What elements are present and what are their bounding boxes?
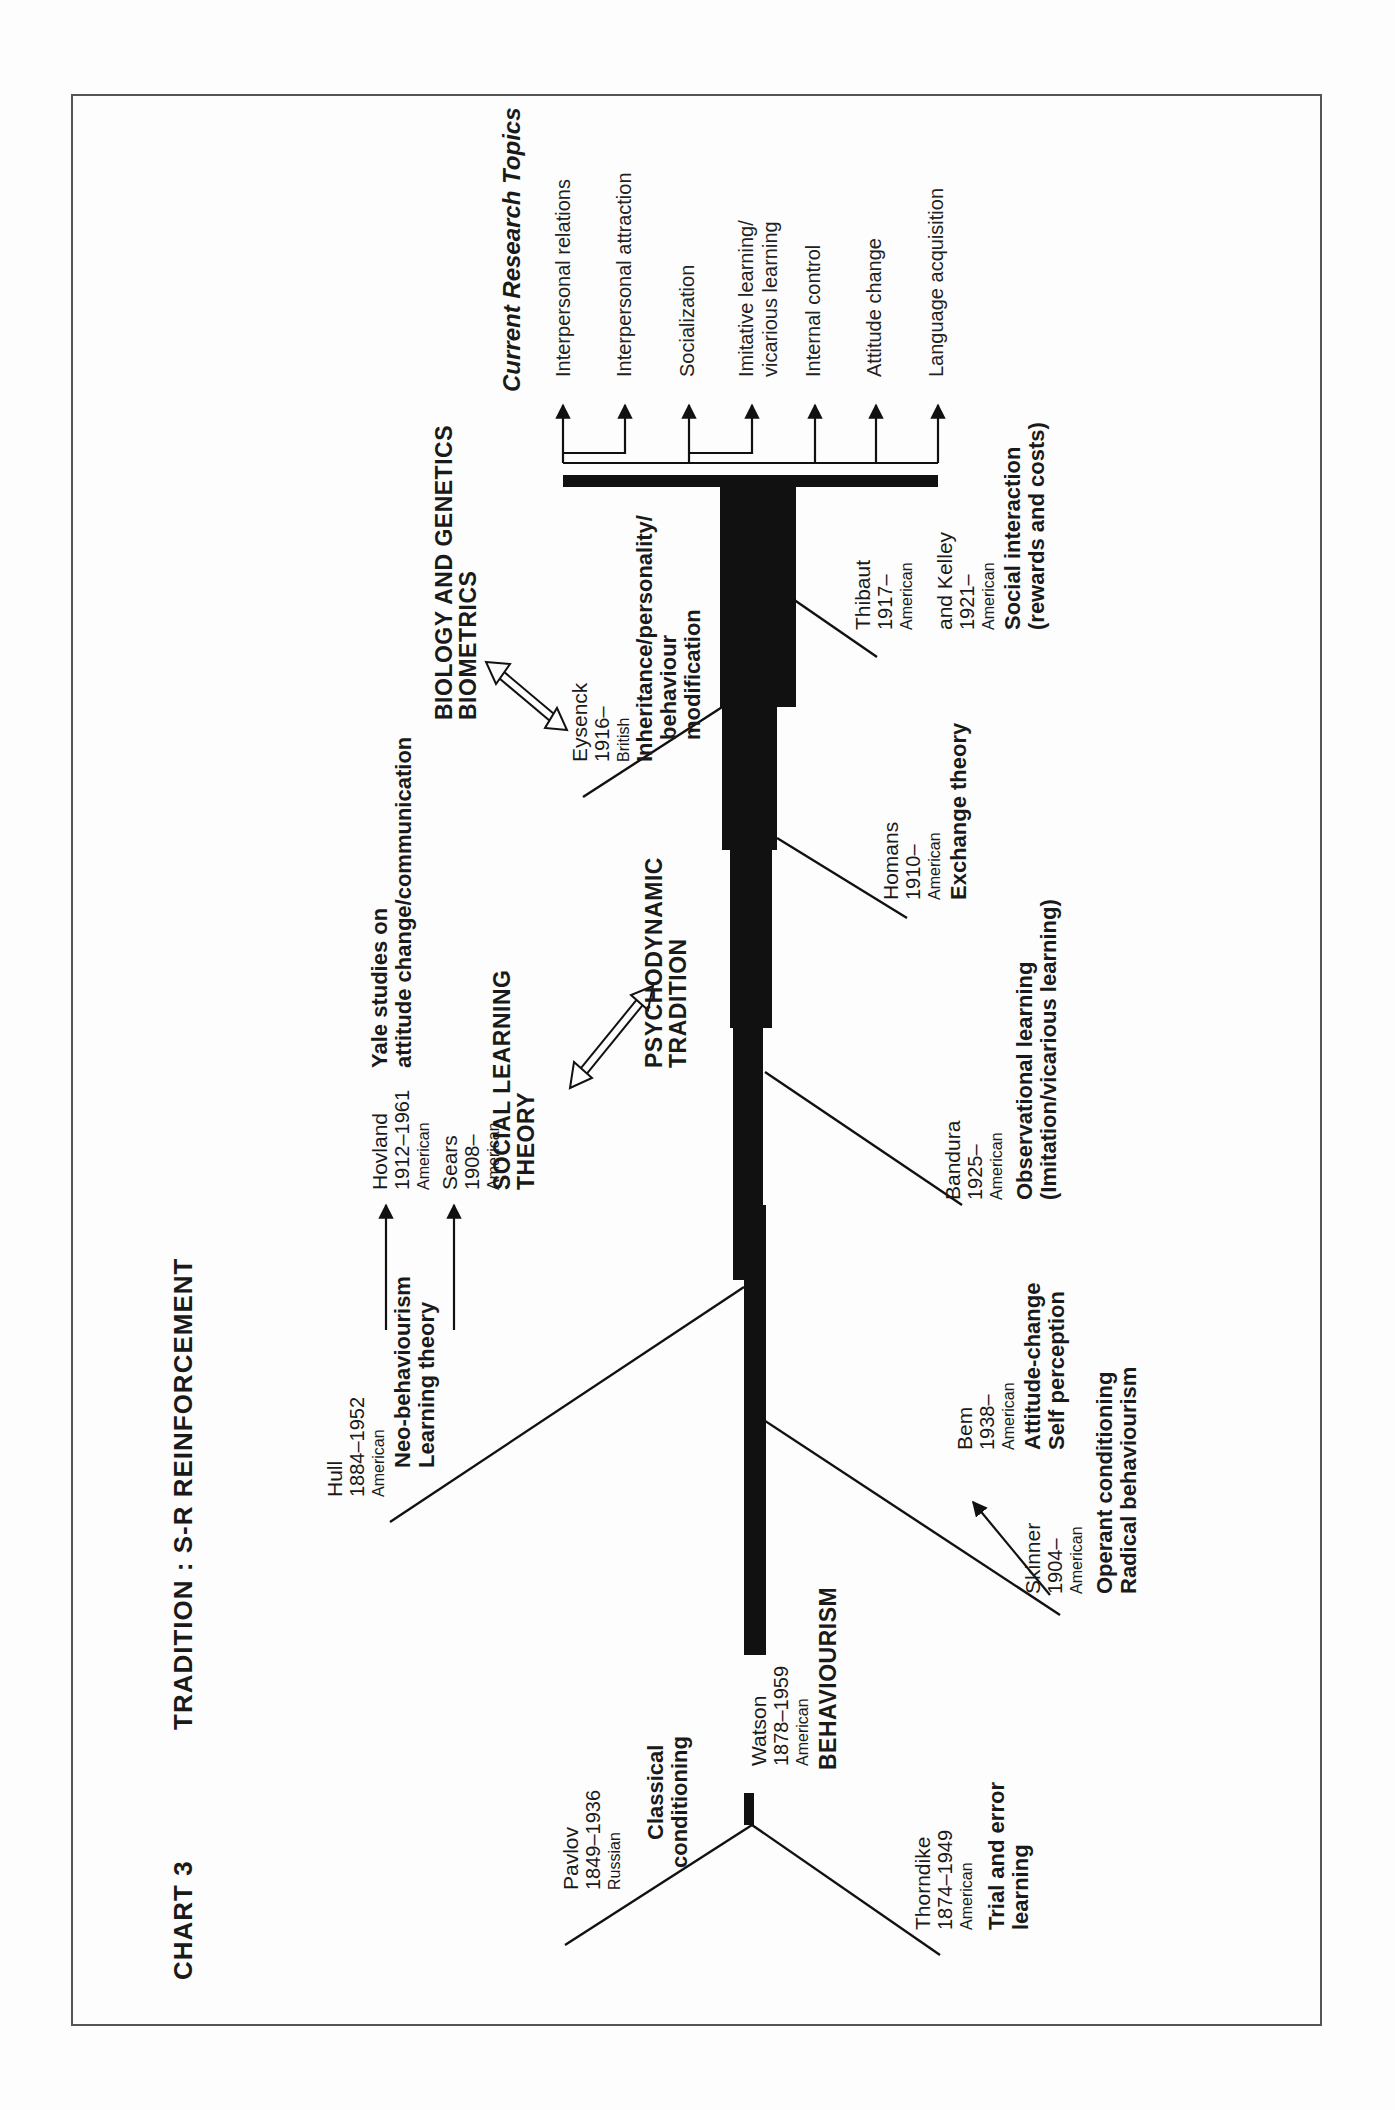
chart-number: CHART 3: [168, 1860, 198, 1980]
topic-interpersonal-relations: Interpersonal relations: [552, 179, 574, 377]
svg-text:1908–: 1908–: [461, 1134, 483, 1190]
svg-text:Sears: Sears: [438, 1135, 461, 1190]
kelley-label: and Kelley 1921– American: [933, 531, 997, 630]
hull-label: Hull 1884–1952 American: [323, 1397, 387, 1497]
thibaut-kelley-contribution: Social interaction (rewards and costs): [1000, 422, 1049, 630]
svg-text:Thibaut: Thibaut: [851, 560, 874, 630]
pavlov-label: Pavlov 1849–1936 Russian: [559, 1790, 623, 1890]
topic-language-acquisition: Language acquisition: [925, 188, 947, 377]
svg-text:American: American: [415, 1122, 432, 1190]
hovland-contribution: Yale studies on attitude change/communic…: [367, 737, 416, 1068]
eysenck-contribution: Inheritance/personality/ behaviour modif…: [632, 515, 705, 762]
bandura-branch: [765, 1072, 962, 1205]
svg-text:Bem: Bem: [953, 1407, 976, 1450]
svg-text:modification: modification: [680, 609, 705, 740]
svg-text:1912–1961: 1912–1961: [391, 1090, 413, 1190]
skinner-label: Skinner 1904– American: [1021, 1523, 1085, 1594]
svg-text:Bandura: Bandura: [941, 1120, 964, 1200]
thorndike-label: Thorndike 1874–1949 American: [911, 1830, 975, 1930]
svg-text:Social interaction: Social interaction: [1000, 447, 1025, 630]
svg-text:and Kelley: and Kelley: [933, 531, 956, 630]
svg-text:Thorndike: Thorndike: [911, 1837, 934, 1930]
topic-attitude-change: Attitude change: [863, 238, 885, 377]
svg-text:Self perception: Self perception: [1044, 1291, 1069, 1450]
svg-text:1904–: 1904–: [1044, 1538, 1066, 1594]
svg-text:BIOLOGY AND GENETICS: BIOLOGY AND GENETICS: [431, 425, 457, 720]
bem-contribution: Attitude-change Self perception: [1020, 1283, 1069, 1450]
bem-label: Bem 1938– American: [953, 1382, 1017, 1450]
svg-text:American: American: [926, 832, 943, 900]
svg-text:BIOMETRICS: BIOMETRICS: [455, 571, 481, 720]
svg-text:Interpersonal relations: Interpersonal relations: [552, 179, 574, 377]
topic-internal-control: Internal control: [802, 245, 824, 377]
eysenck-biology-double-arrow: [486, 662, 567, 730]
pavlov-contribution: Classical conditioning: [643, 1736, 692, 1868]
svg-text:American: American: [980, 562, 997, 630]
svg-text:Trial and error: Trial and error: [984, 1782, 1009, 1930]
svg-text:Homans: Homans: [879, 822, 902, 900]
svg-text:American: American: [794, 1698, 811, 1766]
svg-text:Socialization: Socialization: [676, 265, 698, 377]
topic-interpersonal-attraction: Interpersonal attraction: [613, 172, 635, 377]
svg-text:Imitative learning/: Imitative learning/: [735, 220, 757, 377]
svg-text:learning: learning: [1008, 1844, 1033, 1930]
svg-text:Attitude-change: Attitude-change: [1020, 1283, 1045, 1450]
svg-text:1925–: 1925–: [964, 1144, 986, 1200]
hull-branch: [390, 1287, 744, 1522]
svg-text:American: American: [1068, 1526, 1085, 1594]
svg-text:Hull: Hull: [323, 1461, 346, 1497]
hovland-label: Hovland 1912–1961 American: [368, 1090, 432, 1190]
topic-socialization: Socialization: [676, 265, 698, 377]
svg-text:conditioning: conditioning: [667, 1736, 692, 1868]
svg-text:Operant conditioning: Operant conditioning: [1092, 1372, 1117, 1594]
svg-text:Watson: Watson: [747, 1696, 770, 1766]
svg-text:1884–1952: 1884–1952: [346, 1397, 368, 1497]
svg-text:American: American: [898, 562, 915, 630]
social-learning-theory-label: SOCIAL LEARNING THEORY: [489, 970, 539, 1190]
svg-text:American: American: [988, 1132, 1005, 1200]
thorndike-contribution: Trial and error learning: [984, 1782, 1033, 1930]
svg-text:1874–1949: 1874–1949: [934, 1830, 956, 1930]
svg-text:1917–: 1917–: [874, 574, 896, 630]
research-topics-list: Interpersonal relations Interpersonal at…: [552, 172, 947, 377]
svg-text:BEHAVIOURISM: BEHAVIOURISM: [815, 1587, 841, 1770]
svg-text:Classical: Classical: [643, 1745, 668, 1840]
svg-text:American: American: [370, 1429, 387, 1497]
bandura-contribution: Observational learning (Imitation/vicari…: [1012, 899, 1061, 1200]
chart-canvas: CHART 3 TRADITION : S-R REINFORCEMENT: [0, 0, 1395, 2110]
svg-text:Hovland: Hovland: [368, 1113, 391, 1190]
svg-text:Internal control: Internal control: [802, 245, 824, 377]
svg-text:Yale studies on: Yale studies on: [367, 908, 392, 1068]
psychodynamic-tradition-label: PSYCHODYNAMIC TRADITION: [641, 857, 691, 1068]
svg-text:behaviour: behaviour: [656, 634, 681, 740]
biology-genetics-label: BIOLOGY AND GENETICS BIOMETRICS: [431, 425, 481, 720]
svg-text:Interpersonal attraction: Interpersonal attraction: [613, 172, 635, 377]
svg-text:TRADITION: TRADITION: [665, 938, 691, 1068]
svg-text:Attitude change: Attitude change: [863, 238, 885, 377]
svg-text:attitude change/communication: attitude change/communication: [391, 737, 416, 1068]
svg-text:Skinner: Skinner: [1021, 1523, 1044, 1594]
current-research-heading: Current Research Topics: [498, 107, 525, 392]
homans-label: Homans 1910– American: [879, 822, 943, 900]
svg-text:British: British: [615, 718, 632, 762]
svg-text:1916–: 1916–: [591, 706, 613, 762]
svg-text:Current Research Topics: Current Research Topics: [498, 107, 525, 392]
svg-text:American: American: [958, 1862, 975, 1930]
svg-text:1921–: 1921–: [956, 574, 978, 630]
hull-contribution: Neo-behaviourism Learning theory: [390, 1276, 439, 1468]
bandura-label: Bandura 1925– American: [941, 1120, 1005, 1200]
svg-text:(rewards and costs): (rewards and costs): [1024, 422, 1049, 630]
chart-title: TRADITION : S-R REINFORCEMENT: [168, 1258, 198, 1730]
svg-text:American: American: [1000, 1382, 1017, 1450]
research-topic-connectors: [563, 405, 938, 463]
svg-text:1910–: 1910–: [902, 844, 924, 900]
svg-text:Pavlov: Pavlov: [559, 1826, 582, 1890]
svg-text:1849–1936: 1849–1936: [582, 1790, 604, 1890]
svg-text:Language acquisition: Language acquisition: [925, 188, 947, 377]
svg-text:PSYCHODYNAMIC: PSYCHODYNAMIC: [641, 857, 667, 1068]
svg-text:Neo-behaviourism: Neo-behaviourism: [390, 1276, 415, 1468]
behaviourism-label: BEHAVIOURISM: [815, 1587, 841, 1770]
watson-label: Watson 1878–1959 American: [747, 1666, 811, 1766]
svg-text:vicarious learning: vicarious learning: [759, 221, 781, 377]
svg-text:1938–: 1938–: [976, 1394, 998, 1450]
